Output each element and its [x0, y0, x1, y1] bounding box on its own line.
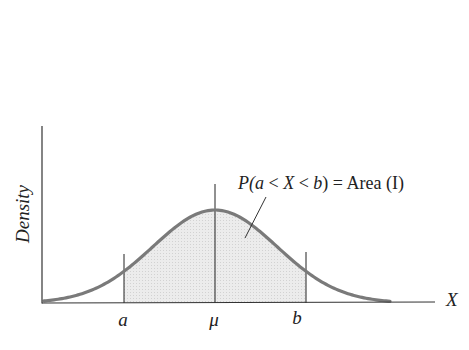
y-axis-label: Density: [12, 184, 33, 244]
x-axis: [42, 302, 435, 303]
tick-label-a: a: [118, 309, 128, 330]
x-axis-label: X: [445, 289, 459, 310]
caption-cutoff: [60, 340, 360, 350]
annotation-suffix: ) = Area (I): [322, 173, 404, 194]
figure-canvas: Density X a μ b P(a < X < b) = Area (I): [0, 0, 469, 350]
annotation-lt1: <: [264, 173, 283, 193]
tick-label-mu: μ: [208, 309, 219, 330]
annotation-lt2: <: [294, 173, 313, 193]
probability-annotation: P(a < X < b) = Area (I): [237, 173, 404, 194]
annotation-p: P(: [237, 173, 256, 194]
annotation-a: a: [255, 173, 264, 193]
annotation-b: b: [313, 173, 322, 193]
normal-distribution-figure: Density X a μ b P(a < X < b) = Area (I): [0, 0, 469, 350]
tick-label-b: b: [292, 307, 302, 328]
